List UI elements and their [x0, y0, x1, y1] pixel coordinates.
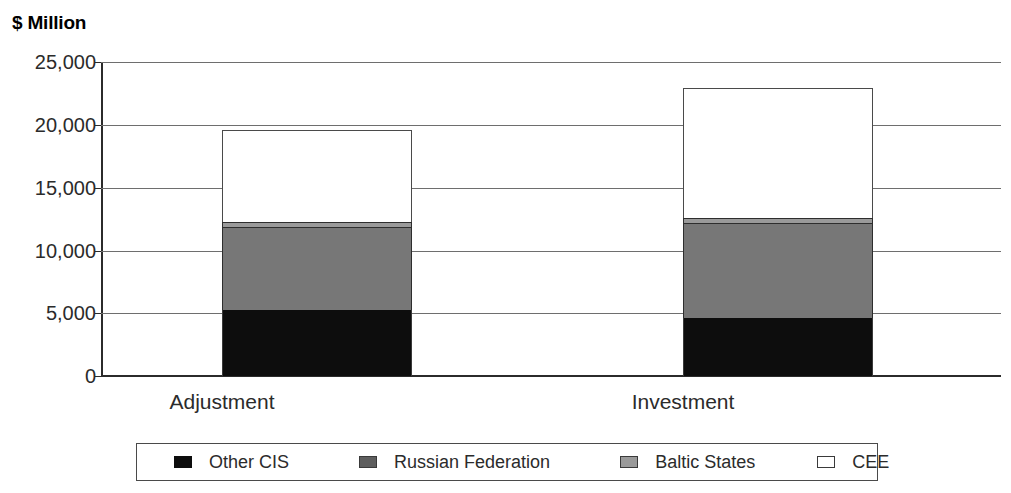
stacked-bar-chart: $ Million 25,000 20,000 15,000 10,000 5,… — [0, 0, 1011, 493]
medium-gray-swatch-icon — [620, 456, 638, 468]
dark-gray-swatch-icon — [359, 456, 377, 468]
y-tick-label-5000: 5,000 — [4, 302, 96, 325]
y-tick-label-0: 0 — [4, 365, 96, 388]
bar-group-investment[interactable] — [683, 62, 873, 376]
y-tick-label-25000: 25,000 — [4, 51, 96, 74]
bar-segment-investment-cee[interactable] — [683, 88, 873, 219]
legend-item-russian-federation[interactable]: Russian Federation — [359, 452, 550, 473]
legend-label-other-cis: Other CIS — [209, 452, 289, 473]
legend-item-other-cis[interactable]: Other CIS — [174, 452, 289, 473]
y-tick-label-10000: 10,000 — [4, 240, 96, 263]
plot-area — [101, 62, 1001, 376]
bar-segment-investment-russian-federation[interactable] — [683, 223, 873, 318]
bar-segment-adjustment-other-cis[interactable] — [222, 310, 412, 376]
solid-black-swatch-icon — [174, 456, 192, 468]
x-category-label-investment: Investment — [533, 390, 833, 414]
legend-label-russian-federation: Russian Federation — [394, 452, 550, 473]
legend-item-baltic-states[interactable]: Baltic States — [620, 452, 755, 473]
x-category-label-adjustment: Adjustment — [72, 390, 372, 414]
chart-legend: Other CIS Russian Federation Baltic Stat… — [136, 443, 878, 481]
legend-label-baltic-states: Baltic States — [655, 452, 755, 473]
y-tick-label-20000: 20,000 — [4, 114, 96, 137]
legend-item-cee[interactable]: CEE — [817, 452, 889, 473]
y-axis-tick-labels: 25,000 20,000 15,000 10,000 5,000 0 — [0, 0, 96, 493]
bar-segment-adjustment-cee[interactable] — [222, 130, 412, 222]
bar-segment-investment-other-cis[interactable] — [683, 318, 873, 376]
bar-segment-adjustment-russian-federation[interactable] — [222, 227, 412, 310]
y-tick-label-15000: 15,000 — [4, 177, 96, 200]
white-swatch-icon — [817, 456, 835, 468]
legend-label-cee: CEE — [852, 452, 889, 473]
bar-group-adjustment[interactable] — [222, 62, 412, 376]
